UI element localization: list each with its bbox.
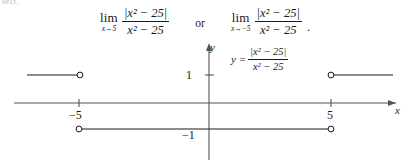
curve-right-branch [328, 72, 393, 78]
open-circle-left-top [77, 72, 83, 78]
curve-equation-label: y = |x² − 25| x² − 25 [231, 46, 288, 73]
y-tick-label-one: 1 [186, 68, 192, 83]
open-circle-left-bottom [76, 126, 82, 132]
x-tick-label-minus5: −5 [69, 108, 82, 123]
curve-equation-denominator: x² − 25 [251, 60, 286, 73]
figure-container: sect. lim x→5 |x² − 25| x² − 25 or lim x… [0, 0, 410, 167]
plot-svg [0, 0, 410, 167]
x-axis-label: x [395, 104, 400, 116]
curve-left-branch [27, 72, 83, 78]
curve-equation-lhs: y = [231, 53, 246, 65]
open-circle-right-bottom [328, 126, 334, 132]
step-function-plot: y x −5 5 1 −1 y = |x² − 25| x² − 25 [0, 0, 410, 167]
x-axis [14, 100, 396, 106]
y-axis [206, 43, 212, 160]
open-circle-right-top [328, 72, 334, 78]
curve-middle-branch [76, 126, 334, 132]
y-axis-label: y [210, 41, 215, 53]
x-tick-label-plus5: 5 [327, 108, 333, 123]
y-tick-label-minus-one: −1 [182, 128, 195, 143]
curve-equation-fraction: |x² − 25| x² − 25 [248, 46, 288, 73]
curve-equation-numerator: |x² − 25| [248, 46, 288, 59]
